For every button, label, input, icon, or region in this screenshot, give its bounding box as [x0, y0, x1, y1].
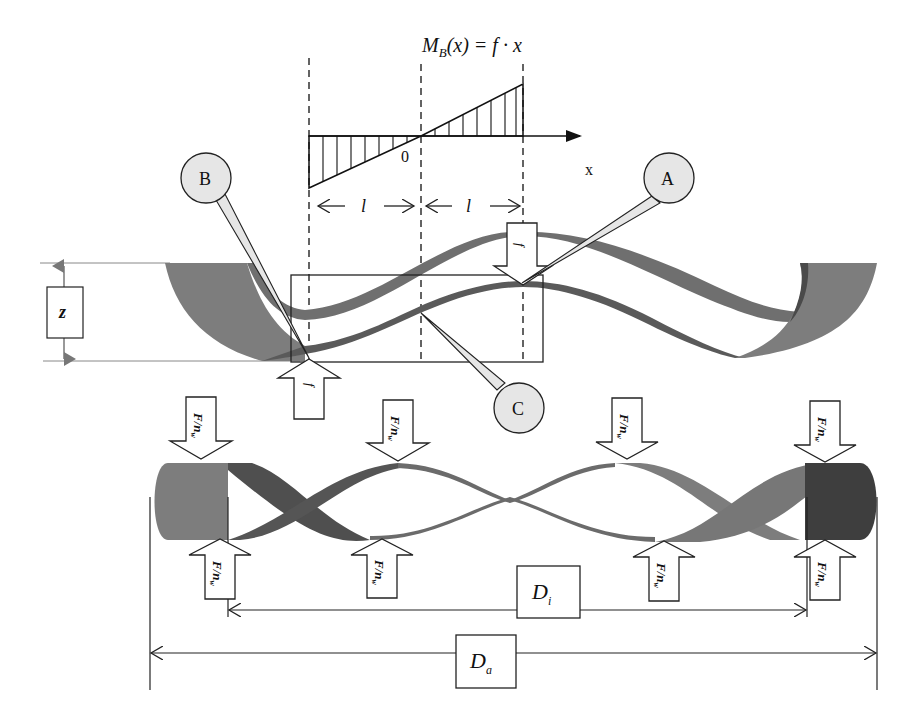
force-arrow-up-1[interactable]: F/nw — [189, 539, 251, 599]
band-center-upper — [398, 463, 615, 503]
force-arrow-bottom[interactable] — [278, 359, 340, 419]
wave-spring-diagram: MB(x) = f · x 0 x l l z f — [0, 0, 917, 715]
wave-spring-side-view: z f f — [40, 223, 877, 419]
force-arrow-down-1[interactable]: F/nw — [170, 397, 232, 459]
callout-c-label: C — [512, 399, 524, 419]
force-arrow-down-4[interactable]: F/nw — [794, 401, 856, 462]
wave-spring-top-view: Di Da — [150, 463, 877, 690]
callout-a-label: A — [661, 169, 674, 189]
span-left-label: l — [361, 196, 366, 216]
span-right-label: l — [466, 196, 471, 216]
moment-positive-region — [421, 84, 523, 136]
band-right-cap — [805, 463, 877, 540]
band-left-cap — [155, 463, 229, 540]
force-arrow-up-2[interactable]: F/nw — [351, 539, 413, 598]
band-center-lower — [370, 497, 655, 542]
callout-b-label: B — [199, 169, 211, 189]
spring-lower-band — [262, 281, 745, 361]
z-label: z — [58, 302, 66, 322]
x-axis-label: x — [585, 161, 593, 178]
force-arrow-down-3[interactable]: F/nw — [596, 398, 658, 459]
outer-diameter-box — [456, 635, 516, 688]
force-arrow-down-2[interactable]: F/nw — [367, 400, 429, 461]
callout-c: C — [421, 313, 544, 433]
origin-label: 0 — [401, 148, 409, 165]
callout-a: A — [522, 153, 694, 283]
bending-moment-diagram: MB(x) = f · x 0 x l l — [309, 34, 593, 362]
inner-diameter-box — [517, 566, 580, 618]
force-arrow-up-3[interactable]: F/nw — [633, 541, 695, 601]
force-arrow-up-4[interactable]: F/nw — [794, 540, 856, 600]
band-left-cross-a — [228, 463, 370, 541]
moment-formula: MB(x) = f · x — [421, 34, 522, 60]
